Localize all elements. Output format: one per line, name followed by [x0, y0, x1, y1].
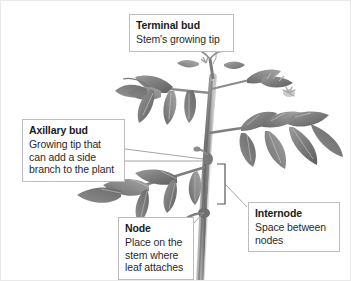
callout-internode: Internode Space between nodes	[248, 202, 340, 252]
callout-node-description: Place on the stem where leaf attaches	[125, 236, 187, 274]
callout-axillary-bud: Axillary bud Growing tip that can add a …	[22, 119, 125, 182]
upper-right-leaf-group	[212, 69, 295, 97]
main-stem	[199, 77, 216, 280]
right-compound-leaf	[209, 111, 343, 169]
leader-axillary-bud-upper	[125, 149, 203, 159]
callout-node-term: Node	[125, 222, 187, 235]
callout-terminal-bud-term: Terminal bud	[136, 19, 227, 32]
callout-node: Node Place on the stem where leaf attach…	[118, 217, 194, 280]
callout-axillary-bud-term: Axillary bud	[29, 124, 118, 137]
callout-terminal-bud-description: Stem's growing tip	[136, 33, 227, 46]
callout-internode-description: Space between nodes	[255, 221, 333, 247]
callout-axillary-bud-description: Growing tip that can add a side branch t…	[29, 138, 118, 176]
internode-bracket	[217, 164, 247, 207]
upper-left-leaf-group	[115, 75, 211, 125]
right-flower-cluster	[283, 87, 295, 97]
plant-anatomy-figure: Terminal bud Stem's growing tip Axillary…	[0, 0, 351, 281]
callout-internode-term: Internode	[255, 207, 333, 220]
callout-terminal-bud: Terminal bud Stem's growing tip	[129, 14, 234, 52]
